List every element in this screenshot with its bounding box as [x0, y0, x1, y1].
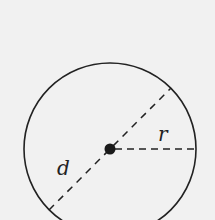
diameter-label: d: [57, 156, 70, 180]
radius-label: r: [158, 122, 169, 146]
circle-diagram: d r: [0, 0, 215, 220]
center-point: [105, 144, 116, 155]
